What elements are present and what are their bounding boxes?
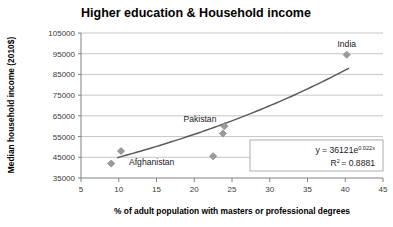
chart-container: Higher education & Household income 3500… — [0, 0, 393, 227]
y-axis-title: Median household income (2010$) — [6, 37, 16, 174]
y-tick-label: 105000 — [48, 29, 75, 38]
x-tick-label: 40 — [341, 185, 350, 194]
data-point-label: India — [337, 39, 356, 49]
chart-title: Higher education & Household income — [81, 6, 311, 20]
x-tick-label: 20 — [190, 185, 199, 194]
y-tick-label: 55000 — [53, 133, 76, 142]
x-tick-label: 10 — [114, 185, 123, 194]
x-tick-label: 35 — [303, 185, 312, 194]
x-tick-label: 25 — [228, 185, 237, 194]
equation-callout: y = 36121e0.022x R2= 0.8881 — [250, 140, 383, 171]
x-axis-title: % of adult population with masters or pr… — [114, 206, 350, 216]
y-tick-label: 85000 — [53, 70, 76, 79]
x-tick-label: 5 — [79, 185, 84, 194]
y-tick-label: 45000 — [53, 153, 76, 162]
data-point-label: Afghanistan — [129, 157, 175, 167]
y-tick-label: 75000 — [53, 91, 76, 100]
y-tick-label: 35000 — [53, 174, 76, 183]
data-point-label: Pakistan — [183, 114, 216, 124]
x-tick-label: 15 — [152, 185, 161, 194]
x-tick-label: 45 — [379, 185, 388, 194]
x-tick-label: 30 — [265, 185, 274, 194]
y-tick-label: 95000 — [53, 50, 76, 59]
chart-svg: Higher education & Household income 3500… — [0, 0, 393, 227]
y-tick-label: 65000 — [53, 112, 76, 121]
